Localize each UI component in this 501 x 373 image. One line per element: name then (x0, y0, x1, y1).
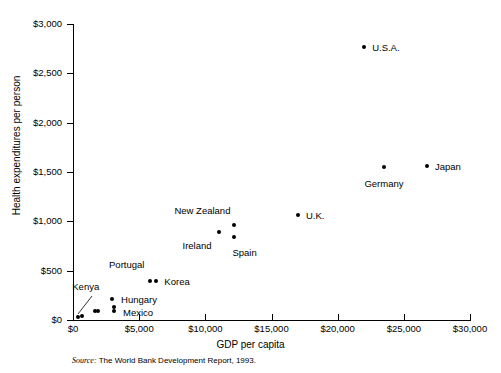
y-tick-label: $2,500 (0, 68, 62, 78)
data-point-germany (382, 165, 386, 169)
source-label: Source: (72, 356, 97, 365)
data-point-portugal (148, 279, 152, 283)
x-tick-mark (470, 314, 471, 321)
point-label-portugal: Portugal (0, 260, 144, 270)
point-label-kenya: Kenya (72, 282, 99, 292)
point-label-u-s-a: U.S.A. (372, 43, 399, 53)
data-point-new-zealand (232, 223, 236, 227)
data-point-u-k (296, 213, 300, 217)
point-label-germany: Germany (364, 179, 403, 189)
point-label-u-k: U.K. (306, 211, 324, 221)
data-point (96, 309, 100, 313)
point-label-ireland: Ireland (0, 241, 212, 251)
y-tick-label: $0 (0, 315, 62, 325)
data-point-korea (154, 279, 158, 283)
x-tick-label: $20,000 (320, 324, 354, 334)
source-caption: Source: The World Bank Development Repor… (72, 357, 256, 365)
data-point-ireland (217, 230, 221, 234)
point-label-korea: Korea (164, 277, 189, 287)
y-tick-label: $3,000 (0, 19, 62, 29)
data-point-u-s-a (362, 45, 366, 49)
data-point-hungary (110, 297, 114, 301)
data-point-mexico (112, 309, 116, 313)
scatter-chart-figure: $0$500$1,000$1,500$2,000$2,500$3,000 $0$… (0, 0, 501, 373)
y-tick-label: $1,500 (0, 167, 62, 177)
y-tick-label: $1,000 (0, 216, 62, 226)
point-label-japan: Japan (435, 162, 461, 172)
x-tick-label: $0 (68, 324, 79, 334)
x-tick-label: $25,000 (387, 324, 421, 334)
data-point-japan (425, 164, 429, 168)
x-tick-label: $30,000 (453, 324, 487, 334)
plot-area (73, 24, 470, 320)
point-label-hungary: Hungary (121, 295, 157, 305)
point-label-new-zealand: New Zealand (0, 206, 230, 216)
x-axis-title: GDP per capita (0, 339, 501, 350)
y-tick-label: $2,000 (0, 118, 62, 128)
data-point-spain (232, 235, 236, 239)
x-tick-label: $5,000 (125, 324, 154, 334)
source-text: The World Bank Development Report, 1993. (97, 356, 256, 365)
x-tick-label: $10,000 (188, 324, 222, 334)
point-label-spain: Spain (232, 248, 256, 258)
data-point (80, 314, 84, 318)
point-label-mexico: Mexico (123, 308, 153, 318)
x-tick-label: $15,000 (254, 324, 288, 334)
